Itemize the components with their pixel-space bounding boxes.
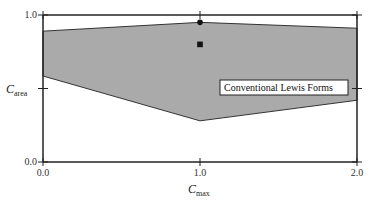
chart: Conventional Lewis Forms 0.01.02.00.01.0… (0, 0, 371, 205)
x-tick-label: 1.0 (194, 167, 207, 178)
y-tick-label: 1.0 (25, 9, 38, 20)
annotation-label: Conventional Lewis Forms (224, 82, 333, 93)
x-tick-label: 2.0 (351, 167, 364, 178)
circle-marker (197, 20, 203, 26)
x-axis-label: Cmax (188, 182, 210, 198)
conventional-lewis-forms-region (43, 22, 357, 120)
y-axis-label: Carea (6, 82, 28, 98)
x-tick-label: 0.0 (37, 167, 50, 178)
y-tick-label: 0.0 (25, 156, 38, 167)
region-annotation: Conventional Lewis Forms (220, 80, 348, 95)
square-marker (197, 42, 203, 48)
